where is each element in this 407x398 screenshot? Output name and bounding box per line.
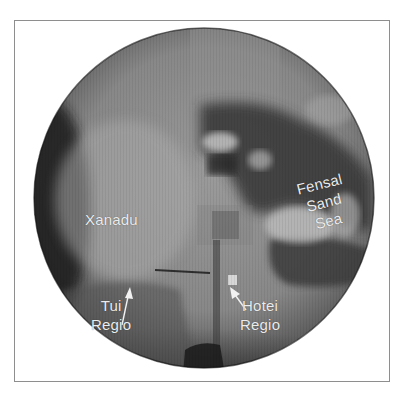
label-tui-regio: Tui Regio <box>91 296 131 334</box>
label-hotei-regio: Hotei Regio <box>240 296 280 334</box>
label-xanadu: Xanadu <box>85 210 138 229</box>
tui-line-2: Regio <box>91 315 131 334</box>
tui-line-1: Tui <box>91 296 131 315</box>
xanadu-text: Xanadu <box>85 210 138 229</box>
hotei-line-1: Hotei <box>240 296 280 315</box>
hotei-line-2: Regio <box>240 315 280 334</box>
